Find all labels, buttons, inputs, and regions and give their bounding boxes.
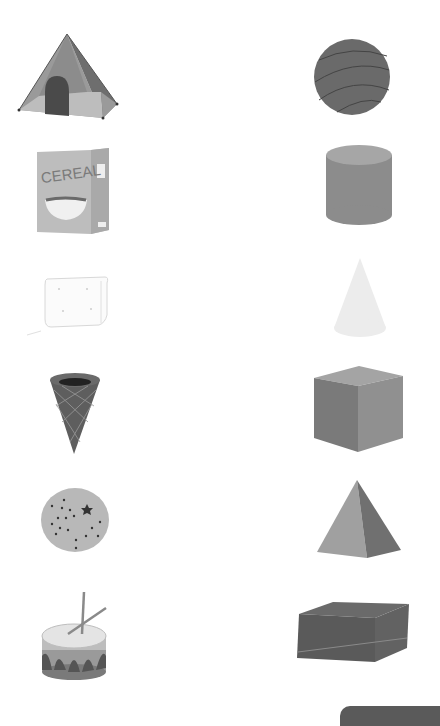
drum-image[interactable] — [40, 590, 112, 684]
orange-image[interactable] — [40, 486, 110, 554]
cereal-box-icon: CEREAL — [35, 146, 111, 236]
ice-cream-cone-image[interactable] — [48, 372, 102, 456]
pyramid-icon — [317, 478, 403, 560]
pyramid-image[interactable] — [317, 478, 403, 560]
drum-icon — [40, 590, 112, 684]
sugar-cube-icon — [25, 275, 109, 337]
sphere-icon — [313, 38, 391, 116]
cylinder-image[interactable] — [325, 143, 393, 227]
cube-image[interactable] — [313, 366, 405, 454]
tent-icon — [15, 32, 119, 122]
orange-icon — [40, 486, 110, 554]
rectangular-prism-icon — [297, 600, 411, 664]
cone-icon — [332, 256, 390, 340]
cone-image[interactable] — [332, 256, 390, 340]
cube-icon — [313, 366, 405, 454]
cylinder-icon — [325, 143, 393, 227]
ice-cream-cone-icon — [48, 372, 102, 456]
cereal-box-image[interactable]: CEREAL — [35, 146, 111, 236]
sugar-cube-image[interactable] — [25, 275, 109, 337]
sphere-image[interactable] — [313, 38, 391, 116]
corner-tab — [340, 706, 440, 726]
rectangular-prism-image[interactable] — [297, 600, 411, 664]
tent-image[interactable] — [15, 32, 119, 122]
